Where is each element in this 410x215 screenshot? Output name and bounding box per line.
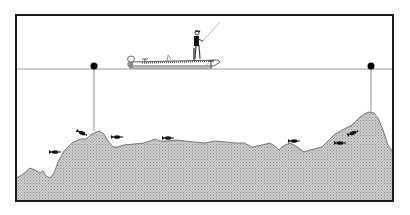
lake-structure-diagram (0, 0, 410, 215)
marker-buoy-right (368, 63, 375, 70)
outboard-motor-icon (128, 56, 135, 62)
outboard-motor-shaft (129, 62, 133, 68)
marker-buoy-left (91, 63, 98, 70)
angler-torso (194, 36, 199, 46)
